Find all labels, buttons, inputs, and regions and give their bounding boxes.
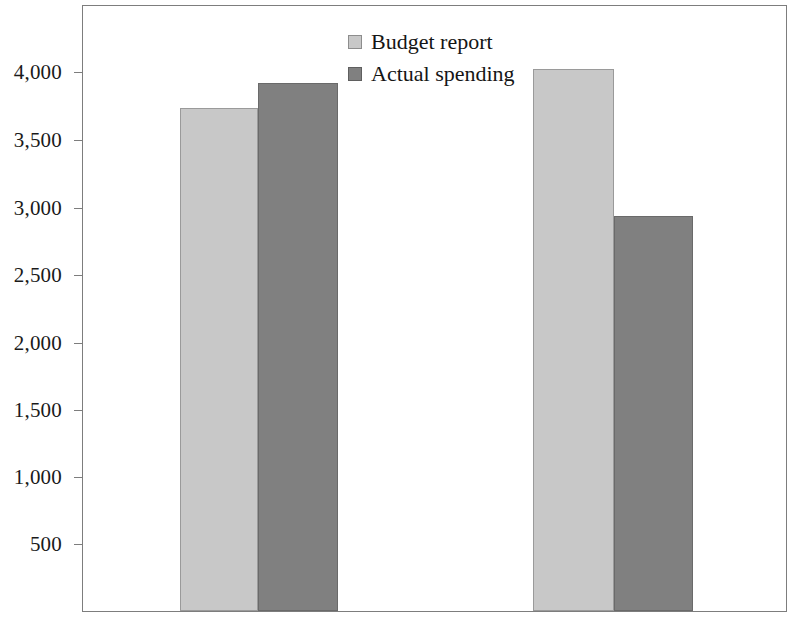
bar-group2-budget-report[interactable] xyxy=(533,69,614,611)
y-axis-tick-label: 3,000 xyxy=(14,196,62,220)
bar-group1-actual-spending[interactable] xyxy=(258,83,338,611)
y-axis-tick-label: 1,500 xyxy=(14,398,62,422)
chart-legend: Budget report Actual spending xyxy=(348,26,515,90)
y-axis-tick-mark xyxy=(74,72,83,73)
y-axis-tick-mark xyxy=(74,140,83,141)
legend-swatch-icon xyxy=(348,67,362,81)
y-axis-tick-mark xyxy=(74,477,83,478)
y-axis-tick-mark xyxy=(74,410,83,411)
y-axis-tick-label: 2,500 xyxy=(14,263,62,287)
legend-swatch-icon xyxy=(348,35,362,49)
y-axis-tick-mark xyxy=(74,275,83,276)
legend-item-actual-spending[interactable]: Actual spending xyxy=(348,58,515,90)
y-axis-tick-mark xyxy=(74,343,83,344)
y-axis-tick-label: 500 xyxy=(30,532,62,556)
y-axis-tick-label: 1,000 xyxy=(14,465,62,489)
bar-group2-actual-spending[interactable] xyxy=(614,216,693,611)
y-axis: 4,000 3,500 3,000 2,500 2,000 1,500 1,00… xyxy=(0,0,82,636)
legend-item-budget-report[interactable]: Budget report xyxy=(348,26,515,58)
y-axis-tick-label: 2,000 xyxy=(14,331,62,355)
legend-item-label: Budget report xyxy=(371,29,493,55)
y-axis-tick-mark xyxy=(74,544,83,545)
y-axis-tick-mark xyxy=(74,208,83,209)
bar-group1-budget-report[interactable] xyxy=(180,108,258,611)
legend-item-label: Actual spending xyxy=(371,61,515,87)
y-axis-tick-label: 3,500 xyxy=(14,128,62,152)
y-axis-tick-label: 4,000 xyxy=(14,60,62,84)
bar-chart: 4,000 3,500 3,000 2,500 2,000 1,500 1,00… xyxy=(0,0,803,636)
